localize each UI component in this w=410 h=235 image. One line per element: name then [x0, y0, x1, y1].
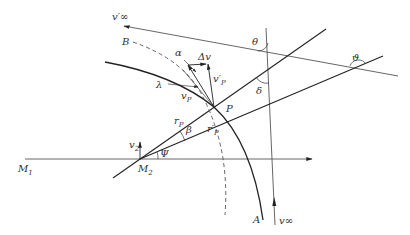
v-inf-prime-line — [124, 26, 398, 76]
r-p-prime-line — [140, 56, 383, 159]
label-psi: Ψ — [160, 148, 170, 159]
label-b: B — [121, 36, 129, 47]
label-theta: θ — [252, 36, 258, 47]
orbital-geometry-diagram: v′∞ B α Δv λ vP v′P P θ δ ϑ rP β r′P Ψ v… — [0, 0, 410, 235]
psi-arc — [157, 152, 158, 159]
label-beta: β — [185, 124, 192, 135]
label-v-inf: v∞ — [279, 215, 293, 226]
r-p-line — [113, 29, 326, 178]
delta-v-vector — [188, 64, 206, 65]
beta-arc — [180, 131, 185, 141]
v-p-vector — [188, 65, 214, 107]
label-v-inf-prime: v′∞ — [112, 11, 128, 22]
label-delta: δ — [256, 85, 262, 96]
label-p: P — [225, 103, 233, 114]
label-m2: M2 — [137, 163, 153, 177]
delta-arc — [256, 77, 269, 83]
label-r-p: rP — [174, 115, 184, 129]
alpha-pointer — [184, 60, 196, 72]
label-v2: v2 — [129, 139, 140, 153]
label-a: A — [252, 214, 260, 225]
label-r-p-prime: r′P — [207, 123, 219, 137]
v-inf-line — [266, 28, 275, 225]
label-m1: M1 — [17, 163, 33, 177]
label-lambda: λ — [155, 79, 162, 90]
v-inf-arrow-icon — [272, 197, 276, 206]
label-v-p-prime: v′P — [213, 73, 226, 87]
label-vartheta: ϑ — [352, 52, 359, 63]
label-alpha: α — [175, 47, 182, 58]
label-delta-v: Δv — [197, 51, 211, 62]
label-v-p: vP — [181, 90, 192, 104]
